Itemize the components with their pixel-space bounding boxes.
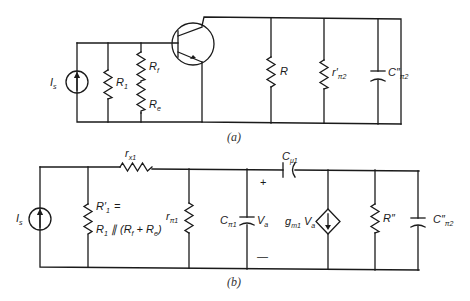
label-is: Is — [50, 76, 57, 90]
svg-text:Cμ1: Cμ1 — [282, 150, 298, 165]
resistor-rx1: rx1 — [120, 147, 152, 171]
minus-sign: — — [257, 250, 268, 262]
svg-text:R1 ∥ (Rf + Re): R1 ∥ (Rf + Re) — [96, 223, 162, 237]
svg-text:Is: Is — [16, 212, 23, 226]
current-source-is-a: Is — [50, 71, 88, 93]
svg-text:rx1: rx1 — [125, 147, 136, 161]
circuit-figure: Is R1 Rf Re R — [0, 0, 470, 301]
svg-text:gm1 Va: gm1 Va — [285, 215, 315, 229]
resistor-r1: R1 — [104, 70, 128, 99]
panel-a: Is R1 Rf Re R — [50, 17, 409, 144]
resistor-r-double-prime: R″ — [371, 204, 396, 233]
svg-text:Re: Re — [149, 98, 161, 112]
caption-a: (a) — [227, 130, 241, 144]
resistor-re: Re — [137, 82, 161, 113]
panel-b-wires — [40, 167, 419, 270]
resistor-r1-prime: R′1= R1 ∥ (Rf + Re) — [84, 200, 162, 237]
capacitor-cmu1: Cμ1 — [282, 150, 298, 177]
svg-text:Rf: Rf — [149, 60, 160, 74]
caption-b: (b) — [227, 275, 241, 289]
svg-text:r′π2: r′π2 — [332, 66, 346, 80]
svg-text:R: R — [280, 65, 288, 77]
npn-transistor — [172, 23, 214, 65]
resistor-rf: Rf — [137, 52, 160, 81]
svg-text:R″: R″ — [383, 212, 396, 224]
capacitor-cpi1: Cπ1 Va + — — [220, 176, 268, 262]
svg-text:R1: R1 — [116, 76, 128, 90]
resistor-rpi2-prime: r′π2 — [320, 60, 346, 89]
current-source-is-b: Is — [16, 208, 51, 230]
capacitor-cpi2-a: C″π2 — [371, 66, 409, 81]
panel-a-wires — [77, 17, 401, 124]
dependent-current-source: gm1 Va — [285, 209, 340, 234]
panel-b: Is R′1= R1 ∥ (Rf + Re) rx1 rπ1 Cπ1 Va + … — [16, 147, 454, 289]
svg-text:C″π2: C″π2 — [388, 66, 409, 80]
svg-text:C″π2: C″π2 — [433, 213, 454, 227]
svg-text:Cπ1: Cπ1 — [220, 214, 237, 228]
resistor-rpi1: rπ1 — [166, 203, 193, 233]
svg-text:Va: Va — [257, 214, 268, 228]
svg-text:R′1=: R′1= — [96, 200, 121, 214]
resistor-r: R — [267, 57, 288, 87]
svg-text:rπ1: rπ1 — [166, 210, 178, 224]
plus-sign: + — [260, 176, 266, 188]
